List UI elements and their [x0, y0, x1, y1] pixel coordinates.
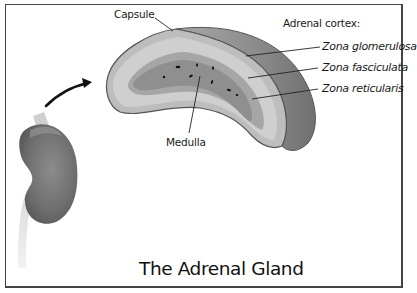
kidney-illustration	[18, 112, 77, 268]
kidney	[19, 124, 77, 224]
zona-glomerulosa-label: Zona glomerulosa	[322, 40, 417, 53]
diagram-title: The Adrenal Gland	[139, 258, 304, 279]
zona-fasciculata-label: Zona fasciculata	[322, 61, 408, 74]
arrow-icon	[46, 78, 92, 106]
cortex-heading-label: Adrenal cortex:	[283, 17, 360, 29]
zona-reticularis-label: Zona reticularis	[322, 82, 403, 95]
capsule-label: Capsule	[114, 8, 155, 20]
adrenal-gland-cross-section	[107, 27, 316, 150]
medulla-label: Medulla	[166, 136, 206, 148]
